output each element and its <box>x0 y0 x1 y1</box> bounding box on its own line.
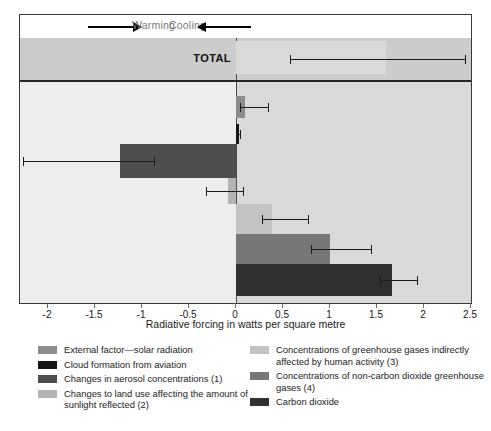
legend-label: Changes in aerosol concentrations (1) <box>64 373 222 385</box>
error-bar-0 <box>240 107 269 108</box>
legend-swatch-icon <box>250 398 269 406</box>
legend-swatch-icon <box>38 390 57 398</box>
x-tick-0 <box>47 304 48 308</box>
x-tick-9 <box>470 304 471 308</box>
bar-6 <box>236 264 392 296</box>
error-bar-5 <box>311 249 372 250</box>
legend-swatch-icon <box>38 361 57 369</box>
x-tick-5 <box>282 304 283 308</box>
legend-column-right: Concentrations of greenhouse gases indir… <box>250 344 485 411</box>
radiative-forcing-chart: Cooling Warming TOTAL <box>19 14 472 304</box>
total-bar <box>236 41 386 74</box>
legend-item-left-1[interactable]: Cloud formation from aviation <box>38 359 258 371</box>
x-tick-4 <box>235 304 236 308</box>
legend-label: Carbon dioxide <box>276 396 339 408</box>
error-bar-3 <box>206 191 244 192</box>
legend-swatch-icon <box>38 375 57 383</box>
legend-item-left-3[interactable]: Changes to land use affecting the amount… <box>38 388 258 411</box>
direction-header: Cooling Warming <box>20 15 471 38</box>
error-bar-6 <box>380 280 419 281</box>
warming-label: Warming <box>132 19 175 31</box>
cooling-half-background <box>20 82 236 303</box>
legend-item-right-1[interactable]: Concentrations of non-carbon dioxide gre… <box>250 370 485 393</box>
legend-label: External factor—solar radiation <box>64 344 193 356</box>
warming-arrow-icon <box>88 26 134 28</box>
x-tick-6 <box>329 304 330 308</box>
legend-item-left-0[interactable]: External factor—solar radiation <box>38 344 258 356</box>
legend-swatch-icon <box>250 346 269 354</box>
legend-label: Concentrations of greenhouse gases indir… <box>276 344 485 367</box>
x-tick-1 <box>94 304 95 308</box>
legend-item-left-2[interactable]: Changes in aerosol concentrations (1) <box>38 373 258 385</box>
legend-label: Concentrations of non-carbon dioxide gre… <box>276 370 485 393</box>
total-row: TOTAL <box>20 38 471 80</box>
legend-swatch-icon <box>38 346 57 354</box>
plot-area <box>20 82 471 303</box>
legend-label: Cloud formation from aviation <box>64 359 186 371</box>
cooling-arrow-icon <box>205 26 251 28</box>
total-label: TOTAL <box>20 52 231 64</box>
x-axis-label: Radiative forcing in watts per square me… <box>0 318 491 330</box>
x-tick-3 <box>188 304 189 308</box>
legend-column-left: External factor—solar radiationCloud for… <box>38 344 258 414</box>
error-bar-4 <box>262 219 309 220</box>
error-bar-1 <box>236 134 241 135</box>
legend-label: Changes to land use affecting the amount… <box>64 388 258 411</box>
legend-swatch-icon <box>250 372 269 380</box>
legend-item-right-2[interactable]: Carbon dioxide <box>250 396 485 408</box>
total-error-bar <box>290 59 467 60</box>
x-tick-7 <box>376 304 377 308</box>
x-tick-8 <box>423 304 424 308</box>
error-bar-2 <box>23 161 156 162</box>
legend: External factor—solar radiationCloud for… <box>0 344 491 429</box>
x-tick-2 <box>141 304 142 308</box>
legend-item-right-0[interactable]: Concentrations of greenhouse gases indir… <box>250 344 485 367</box>
